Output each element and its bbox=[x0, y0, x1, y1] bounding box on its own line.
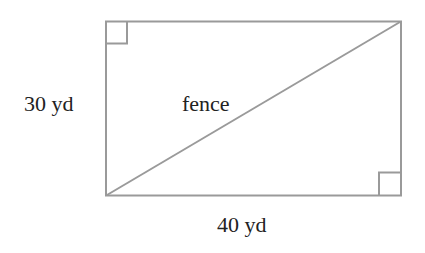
right-angle-marker-bottom-right bbox=[379, 173, 401, 196]
right-angle-marker-top-left bbox=[106, 22, 127, 44]
height-label: 30 yd bbox=[24, 91, 74, 116]
rectangle-diagram: 30 yd fence 40 yd bbox=[0, 0, 425, 253]
fence-diagonal bbox=[107, 22, 400, 195]
diagram-canvas: 30 yd fence 40 yd bbox=[0, 0, 425, 253]
diagonal-label: fence bbox=[182, 91, 230, 116]
width-label: 40 yd bbox=[217, 212, 267, 237]
